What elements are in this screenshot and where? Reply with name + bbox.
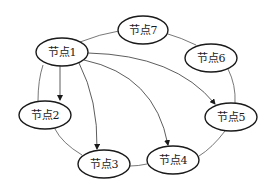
edge-3-2 <box>55 129 82 155</box>
node-3: 节点3 <box>78 150 130 178</box>
edge-7-6 <box>165 33 196 45</box>
edge-2-1 <box>38 65 43 101</box>
edge-1-7 <box>80 31 119 42</box>
node-7-label: 节点7 <box>129 24 158 37</box>
arrow-1-3 <box>79 63 97 149</box>
node-6: 节点6 <box>185 44 237 72</box>
edge-4-3 <box>130 164 147 166</box>
node-1: 节点1 <box>36 38 88 66</box>
edge-6-5 <box>228 69 235 103</box>
edge-5-4 <box>199 131 225 156</box>
node-4-label: 节点4 <box>159 154 188 167</box>
node-4: 节点4 <box>147 146 199 174</box>
node-2-label: 节点2 <box>31 109 60 122</box>
node-5-label: 节点5 <box>217 111 246 124</box>
node-3-label: 节点3 <box>90 158 119 171</box>
node-1-label: 节点1 <box>48 46 77 59</box>
node-7: 节点7 <box>118 16 168 44</box>
node-5: 节点5 <box>205 103 257 131</box>
node-6-label: 节点6 <box>197 52 226 65</box>
network-diagram: 节点1 节点2 节点3 节点4 节点5 节点6 节点7 <box>0 0 267 193</box>
node-2: 节点2 <box>19 101 71 129</box>
